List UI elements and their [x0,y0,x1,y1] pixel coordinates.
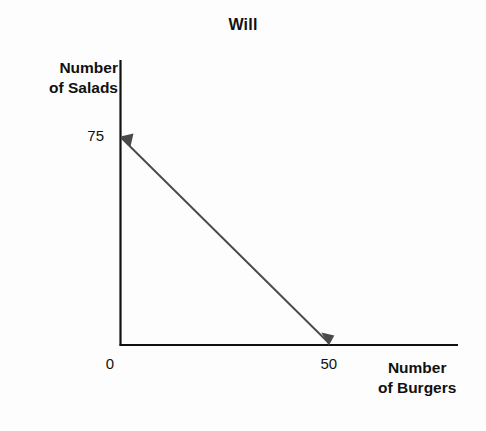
series-line-production-frontier [121,137,329,343]
chart-container: Will Number of Salads Number of Burgers … [0,0,486,431]
plot-area [0,0,486,431]
x-intercept-arrowhead-icon [321,333,334,346]
